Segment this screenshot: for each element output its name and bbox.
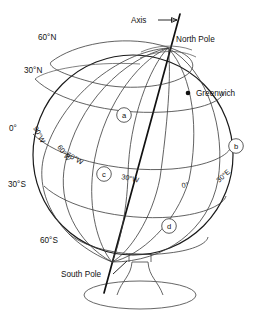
latitude-label-30s: 30°S	[8, 180, 26, 189]
point-marker-d: d	[162, 219, 177, 234]
point-marker-a: a	[117, 108, 132, 123]
point-marker-c: c	[97, 167, 112, 182]
south-pole-label: South Pole	[61, 270, 102, 279]
north-pole-annotation: North Pole	[176, 35, 215, 44]
point-marker-d-label: d	[167, 222, 171, 231]
point-marker-b-label: b	[234, 142, 238, 151]
greenwich-dot	[186, 91, 191, 96]
latitude-line-60s	[69, 234, 208, 254]
latitude-label-0: 0°	[9, 124, 17, 133]
latitude-line-30s	[44, 186, 226, 218]
axis-label: Axis	[131, 16, 146, 25]
south-pole-annotation: South Pole	[61, 261, 127, 279]
point-marker-b: b	[229, 139, 244, 154]
latitude-label-60n: 60°N	[38, 33, 56, 42]
globe-diagram: Greenwich Axis North Pole South Pole 60°…	[0, 0, 264, 324]
south-pole-leader-line	[113, 261, 127, 274]
longitude-label-0: 0°	[181, 180, 189, 190]
longitude-line-60w	[92, 48, 168, 262]
axis-annotation: Axis	[131, 16, 177, 25]
globe-stand	[84, 254, 196, 309]
greenwich-label: Greenwich	[196, 89, 236, 98]
latitude-label-30n: 30°N	[24, 66, 42, 75]
point-marker-c-label: c	[102, 170, 106, 179]
north-pole-label: North Pole	[176, 35, 215, 44]
longitude-label-60w: 60°W	[65, 150, 85, 167]
greenwich-marker: Greenwich	[186, 89, 236, 98]
latitude-label-60s: 60°S	[40, 236, 58, 245]
longitude-line-30e	[112, 48, 194, 262]
